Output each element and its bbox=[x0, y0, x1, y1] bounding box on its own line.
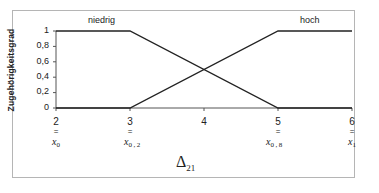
x-tick-label: 3 bbox=[120, 116, 140, 127]
x-tick-equals: = bbox=[46, 127, 66, 136]
y-tick-label: 0,4 bbox=[25, 71, 49, 81]
x-tick-label: 6 bbox=[342, 116, 362, 127]
x-tick-symbol: x0,2 bbox=[124, 136, 142, 149]
x-tick-equals: = bbox=[342, 127, 362, 136]
x-tick-symbol: x1 bbox=[348, 136, 357, 149]
x-tick-symbol: x0 bbox=[52, 136, 61, 149]
x-axis-label: Δ21 bbox=[176, 153, 195, 173]
y-tick-label: 0,8 bbox=[25, 40, 49, 50]
x-tick-label: 2 bbox=[46, 116, 66, 127]
series-label-niedrig: niedrig bbox=[88, 15, 115, 25]
y-tick-label: 0,6 bbox=[25, 56, 49, 66]
x-tick-label: 5 bbox=[268, 116, 288, 127]
series-hoch-line bbox=[56, 31, 352, 108]
x-tick-label: 4 bbox=[194, 116, 214, 127]
x-tick-equals: = bbox=[120, 127, 140, 136]
y-tick-label: 0 bbox=[25, 102, 49, 112]
x-tick-symbol: x0,8 bbox=[266, 136, 284, 149]
y-tick-label: 1 bbox=[25, 25, 49, 35]
y-tick-label: 0,2 bbox=[25, 86, 49, 96]
x-tick-equals: = bbox=[268, 127, 288, 136]
series-label-hoch: hoch bbox=[300, 15, 320, 25]
